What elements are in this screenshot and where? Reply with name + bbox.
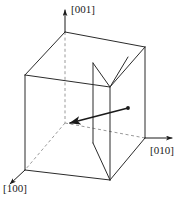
axis-label-001: [001]: [71, 3, 95, 15]
hidden-edges-group: [25, 32, 145, 170]
edge-top-right-to-front: [110, 47, 145, 87]
axis-label-100: [100]: [3, 182, 27, 194]
cell-edges-group: [25, 32, 145, 180]
crystal-direction-figure: [001] [010] [100]: [0, 0, 181, 198]
axis-label-010: [010]: [150, 144, 174, 156]
edge-top-back-to-right: [65, 32, 145, 47]
edge-top-back-to-left: [25, 32, 65, 75]
hidden-edge-bottom-right: [65, 123, 145, 138]
edge-bottom-right-to-front: [110, 138, 145, 180]
edge-top-left-to-front: [25, 75, 110, 87]
crystal-unit-cell-diagram: [001] [010] [100]: [0, 0, 181, 198]
direction-vector-tail-dot: [126, 106, 130, 110]
internal-plane-bottom-edge: [93, 143, 110, 180]
hidden-edge-bottom-left: [25, 123, 65, 170]
axes-group: [10, 10, 172, 184]
edge-bottom-left-to-front: [25, 170, 110, 180]
direction-vector: [70, 108, 128, 123]
direction-vector-group: [70, 106, 130, 123]
